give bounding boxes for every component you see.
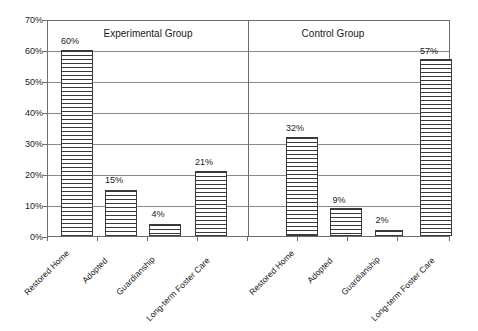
bar-chart: 70% 60% 50% 40% 30% 20% 10% 0% (0, 0, 478, 331)
x-tick-mark-8 (449, 237, 450, 241)
x-label-control-restored-home: Restored Home (247, 248, 296, 297)
x-tick-mark-0 (47, 237, 48, 241)
x-label-experimental-longterm-foster-care: Long-term Foster Care (144, 255, 212, 323)
x-label-control-guardianship: Guardianship (339, 254, 382, 297)
x-label-experimental-adopted: Adopted (80, 256, 109, 285)
x-tick-mark-1 (97, 237, 98, 241)
y-axis-ticks (0, 20, 47, 237)
x-tick-mark-3 (197, 237, 198, 241)
x-tick-mark-4 (247, 237, 248, 241)
bar-control-restored-home[interactable] (286, 137, 318, 236)
panel-title-experimental: Experimental Group (88, 28, 208, 40)
bar-value-control-guardianship: 2% (352, 216, 412, 225)
x-tick-mark-2 (147, 237, 148, 241)
bar-value-control-restored-home: 32% (265, 124, 325, 133)
bar-value-experimental-guardianship: 4% (128, 210, 188, 219)
x-label-control-longterm-foster-care: Long-term Foster Care (369, 255, 437, 323)
bar-control-guardianship[interactable] (375, 230, 403, 236)
group-divider (248, 21, 249, 236)
panel-title-control: Control Group (273, 28, 393, 40)
bar-value-control-adopted: 9% (309, 196, 369, 205)
x-label-control-adopted: Adopted (305, 256, 334, 285)
bar-experimental-longterm-foster-care[interactable] (195, 171, 227, 236)
x-tick-mark-7 (397, 237, 398, 241)
bar-control-longterm-foster-care[interactable] (420, 59, 452, 236)
bar-value-experimental-restored-home: 60% (40, 37, 100, 46)
plot-area: Experimental Group Control Group (47, 20, 450, 237)
bar-value-experimental-adopted: 15% (84, 176, 144, 185)
x-tick-mark-5 (297, 237, 298, 241)
x-label-experimental-guardianship: Guardianship (114, 254, 157, 297)
bar-experimental-restored-home[interactable] (61, 50, 93, 236)
bar-value-experimental-longterm-foster-care: 21% (174, 158, 234, 167)
bar-experimental-guardianship[interactable] (149, 224, 181, 236)
x-label-experimental-restored-home: Restored Home (22, 248, 71, 297)
bar-value-control-longterm-foster-care: 57% (399, 47, 459, 56)
x-tick-mark-6 (347, 237, 348, 241)
